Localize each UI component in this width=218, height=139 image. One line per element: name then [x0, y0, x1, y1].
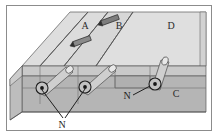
label-c: C: [173, 88, 180, 99]
block-diagram: A B D C N N: [0, 0, 218, 139]
cylinder-2-axis-dot: [83, 85, 87, 89]
callout-n-right: N: [123, 90, 130, 101]
cylinder-3-axis-dot: [153, 82, 157, 86]
label-d: D: [167, 20, 174, 31]
cylinder-1-axis-dot: [40, 86, 44, 90]
label-a: A: [81, 20, 89, 31]
front-face-step-recess: [115, 76, 150, 88]
figure-root: A B D C N N: [0, 0, 218, 139]
top-surface-right-edge: [200, 12, 206, 66]
callout-n-left: N: [58, 119, 65, 130]
label-b: B: [116, 20, 123, 31]
